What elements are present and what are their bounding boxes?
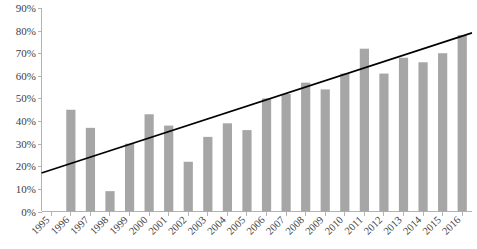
y-axis-tick-label: 0%: [21, 206, 36, 218]
bar-2013: [399, 58, 408, 212]
bar-2006: [262, 98, 271, 211]
bar-2014: [418, 62, 427, 211]
bar-1998: [105, 191, 114, 211]
bar-1996: [66, 110, 75, 212]
y-axis-tick-label: 10%: [16, 183, 36, 195]
y-axis-tick-label: 20%: [16, 160, 36, 172]
y-axis-tick-label: 60%: [16, 70, 36, 82]
bar-2004: [223, 123, 232, 211]
bar-chart: 0%10%20%30%40%50%60%70%80%90% 1995199619…: [0, 0, 477, 249]
bar-2016: [458, 35, 467, 211]
bar-2010: [340, 74, 349, 212]
y-axis-tick-label: 80%: [16, 25, 36, 37]
chart-canvas: 0%10%20%30%40%50%60%70%80%90% 1995199619…: [0, 0, 477, 249]
bar-2008: [301, 83, 310, 212]
bar-2000: [145, 114, 154, 211]
bar-2002: [184, 162, 193, 212]
bar-2011: [360, 49, 369, 212]
bar-2005: [242, 130, 251, 211]
bar-2015: [438, 53, 447, 211]
bar-1997: [86, 128, 95, 212]
bar-1999: [125, 144, 134, 212]
bar-2012: [379, 74, 388, 212]
bar-2003: [203, 137, 212, 212]
y-axis-tick-label: 40%: [16, 115, 36, 127]
bar-2007: [282, 94, 291, 212]
y-axis-tick-label: 50%: [16, 92, 36, 104]
bar-2001: [164, 126, 173, 212]
y-axis-tick-label: 30%: [16, 138, 36, 150]
bar-2009: [321, 89, 330, 211]
y-axis-tick-label: 70%: [16, 47, 36, 59]
y-axis-tick-label: 90%: [16, 2, 36, 14]
